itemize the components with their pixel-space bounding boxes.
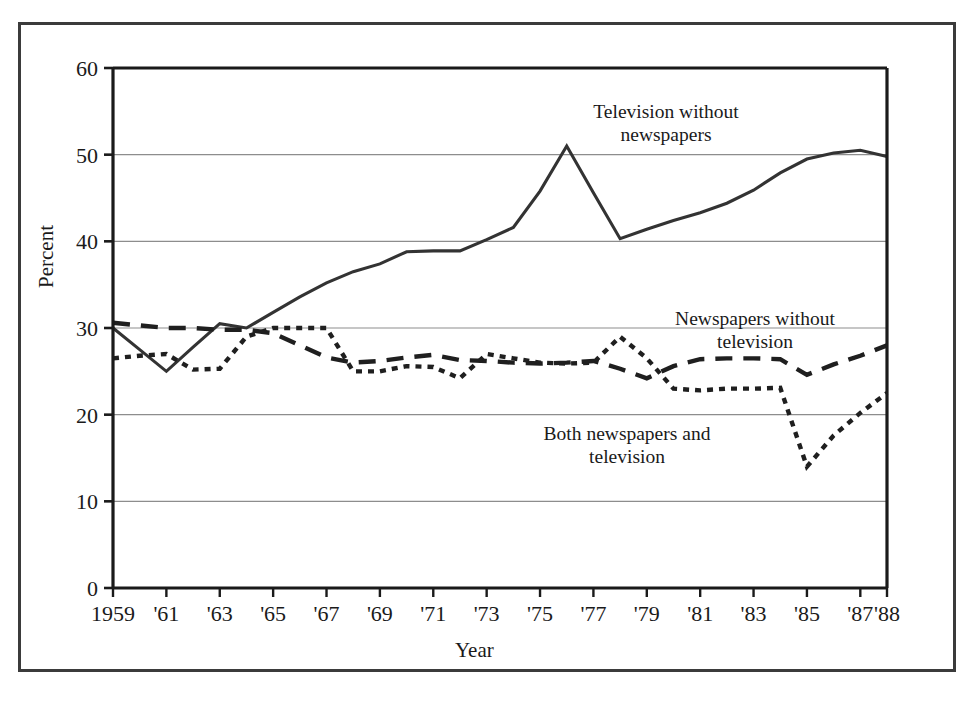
- annotation-both-newspapers-and-television: Both newspapers and television: [544, 422, 711, 468]
- x-axis-tick-label: '61: [153, 601, 179, 626]
- annotation-newspapers-without-television: Newspapers without television: [675, 307, 835, 353]
- annotation-line-1: Both newspapers and: [544, 422, 711, 445]
- annotation-television-without-newspapers: Television without newspapers: [593, 100, 738, 146]
- x-axis-tick-label: '87: [847, 601, 873, 626]
- x-axis-tick-label: '69: [367, 601, 393, 626]
- y-axis-tick-label: 40: [76, 229, 98, 254]
- annotation-line-2: television: [544, 445, 711, 468]
- x-axis-title: Year: [455, 638, 494, 663]
- x-axis-tick-label: '71: [420, 601, 446, 626]
- annotation-line-2: newspapers: [593, 123, 738, 146]
- x-axis-tick-label: 1959: [91, 601, 135, 626]
- x-axis-tick-label: '79: [634, 601, 660, 626]
- y-axis-tick-label: 50: [76, 143, 98, 168]
- x-axis-ticks-group: 1959'61'63'65'67'69'71'73'75'77'79'81'83…: [91, 588, 900, 626]
- y-axis-tick-label: 20: [76, 403, 98, 428]
- y-axis-title: Percent: [34, 225, 59, 288]
- x-axis-tick-label: '63: [207, 601, 233, 626]
- annotation-line-1: Television without: [593, 100, 738, 123]
- x-axis-tick-label: '75: [527, 601, 553, 626]
- y-axis-tick-label: 60: [76, 56, 98, 81]
- x-axis-tick-label: '81: [687, 601, 713, 626]
- chart-figure: 0102030405060 1959'61'63'65'67'69'71'73'…: [0, 0, 977, 704]
- x-axis-tick-label: '85: [794, 601, 820, 626]
- y-axis-tick-label: 10: [76, 489, 98, 514]
- y-axis-tick-label: 30: [76, 316, 98, 341]
- x-axis-tick-label: '77: [580, 601, 606, 626]
- x-axis-tick-label: '88: [874, 601, 900, 626]
- x-axis-tick-label: '67: [314, 601, 340, 626]
- x-axis-tick-label: '83: [741, 601, 767, 626]
- annotation-line-2: television: [675, 330, 835, 353]
- x-axis-tick-label: '65: [260, 601, 286, 626]
- y-axis-tick-label: 0: [87, 576, 98, 601]
- annotation-line-1: Newspapers without: [675, 307, 835, 330]
- y-axis-ticks-group: 0102030405060: [76, 56, 113, 601]
- x-axis-tick-label: '73: [474, 601, 500, 626]
